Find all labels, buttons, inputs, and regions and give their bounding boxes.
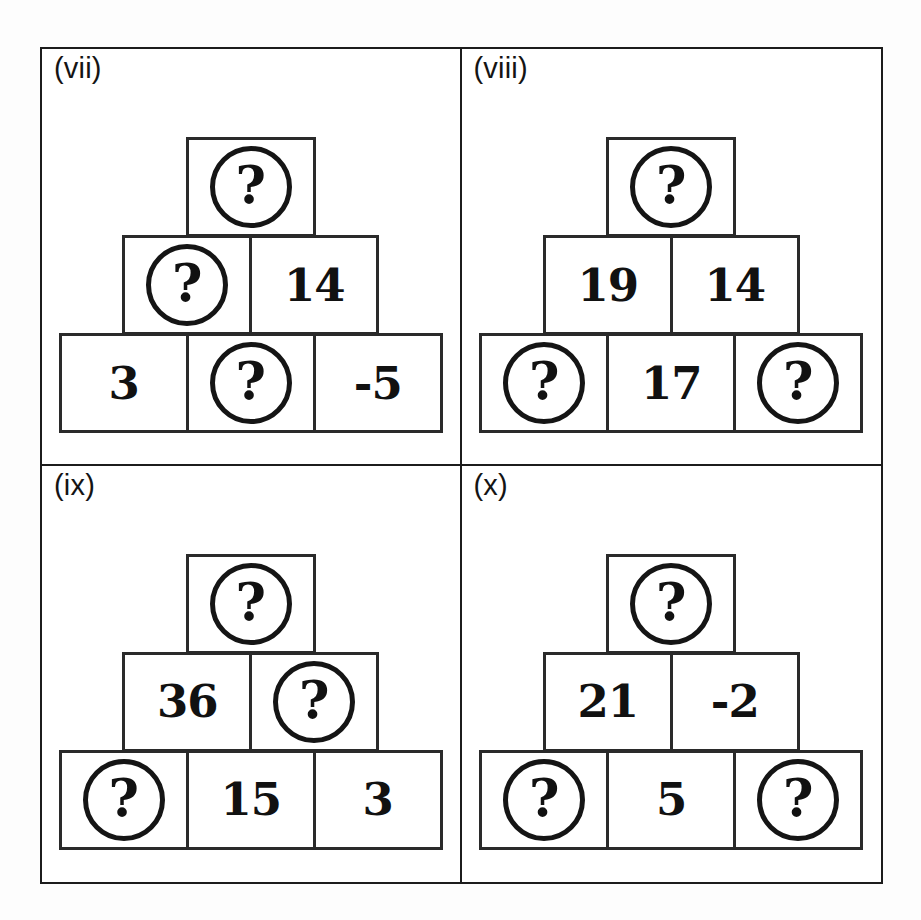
pyramid-cell[interactable]: 5 — [606, 750, 736, 850]
cell-value: ? — [109, 772, 139, 824]
pyramid-row-middle: 36 ? — [56, 652, 446, 752]
pyramid-row-bottom: ? 17 ? — [476, 333, 866, 433]
pyramid-cell[interactable]: -2 — [670, 652, 800, 752]
cell-value: -5 — [354, 361, 402, 406]
cell-value: ? — [236, 159, 266, 211]
cell-value: 19 — [577, 263, 638, 308]
pyramid-row-bottom: ? 5 ? — [476, 750, 866, 850]
pyramid-cell[interactable]: ? — [122, 235, 252, 335]
cell-value: ? — [529, 355, 559, 407]
pyramid-row-middle: ? 14 — [56, 235, 446, 335]
pyramid-cell[interactable]: ? — [59, 750, 189, 850]
pyramid-cell[interactable]: -5 — [313, 333, 443, 433]
unknown-circle-icon[interactable]: ? — [210, 563, 292, 645]
cell-value: 5 — [656, 777, 686, 822]
pyramid-cell[interactable]: 3 — [59, 333, 189, 433]
cell-value: 36 — [157, 679, 218, 724]
pyramid-cell[interactable]: ? — [186, 554, 316, 654]
cell-value: ? — [299, 674, 329, 726]
puzzle-panel-ix: (ix) ? 36 ? ? — [42, 466, 462, 883]
unknown-circle-icon[interactable]: ? — [630, 146, 712, 228]
puzzle-panel-vii: (vii) ? ? 14 3 — [42, 49, 462, 466]
unknown-circle-icon[interactable]: ? — [210, 146, 292, 228]
cell-value: 15 — [220, 777, 281, 822]
pyramid-cell[interactable]: ? — [186, 137, 316, 237]
panel-label-x: (x) — [474, 470, 508, 502]
pyramid-row-top: ? — [476, 137, 866, 237]
cell-value: ? — [236, 355, 266, 407]
pyramid-cell[interactable]: 14 — [249, 235, 379, 335]
pyramid-cell[interactable]: ? — [733, 750, 863, 850]
cell-value: ? — [236, 576, 266, 628]
cell-value: ? — [783, 355, 813, 407]
worksheet-frame: (vii) ? ? 14 3 — [40, 47, 883, 884]
number-pyramid-vii: ? ? 14 3 ? — [56, 137, 446, 434]
cell-value: -2 — [711, 679, 759, 724]
puzzle-panel-viii: (viii) ? 19 14 ? — [462, 49, 882, 466]
pyramid-row-top: ? — [56, 554, 446, 654]
unknown-circle-icon[interactable]: ? — [503, 759, 585, 841]
pyramid-cell[interactable]: ? — [479, 333, 609, 433]
cell-value: ? — [783, 772, 813, 824]
number-pyramid-viii: ? 19 14 ? 17 — [476, 137, 866, 434]
pyramid-row-bottom: ? 15 3 — [56, 750, 446, 850]
unknown-circle-icon[interactable]: ? — [757, 342, 839, 424]
unknown-circle-icon[interactable]: ? — [630, 563, 712, 645]
pyramid-cell[interactable]: ? — [186, 333, 316, 433]
worksheet-page: (vii) ? ? 14 3 — [0, 0, 921, 920]
cell-value: 14 — [704, 263, 765, 308]
panel-label-viii: (viii) — [474, 53, 528, 85]
pyramid-cell[interactable]: 19 — [543, 235, 673, 335]
pyramid-cell[interactable]: ? — [606, 554, 736, 654]
unknown-circle-icon[interactable]: ? — [273, 661, 355, 743]
unknown-circle-icon[interactable]: ? — [146, 244, 228, 326]
cell-value: ? — [656, 576, 686, 628]
puzzle-panel-x: (x) ? 21 -2 ? — [462, 466, 882, 883]
pyramid-cell[interactable]: ? — [606, 137, 736, 237]
cell-value: ? — [656, 159, 686, 211]
pyramid-cell[interactable]: 36 — [122, 652, 252, 752]
cell-value: 14 — [284, 263, 345, 308]
cell-value: 3 — [109, 361, 139, 406]
pyramid-row-middle: 21 -2 — [476, 652, 866, 752]
pyramid-row-top: ? — [56, 137, 446, 237]
pyramid-row-bottom: 3 ? -5 — [56, 333, 446, 433]
unknown-circle-icon[interactable]: ? — [503, 342, 585, 424]
number-pyramid-x: ? 21 -2 ? 5 — [476, 554, 866, 851]
cell-value: ? — [172, 257, 202, 309]
pyramid-cell[interactable]: 15 — [186, 750, 316, 850]
pyramid-cell[interactable]: 17 — [606, 333, 736, 433]
pyramid-cell[interactable]: ? — [733, 333, 863, 433]
pyramid-cell[interactable]: 14 — [670, 235, 800, 335]
cell-value: 17 — [641, 361, 702, 406]
cell-value: ? — [529, 772, 559, 824]
pyramid-row-top: ? — [476, 554, 866, 654]
pyramid-cell[interactable]: 21 — [543, 652, 673, 752]
panel-label-ix: (ix) — [54, 470, 95, 502]
cell-value: 21 — [577, 679, 638, 724]
unknown-circle-icon[interactable]: ? — [757, 759, 839, 841]
unknown-circle-icon[interactable]: ? — [210, 342, 292, 424]
unknown-circle-icon[interactable]: ? — [83, 759, 165, 841]
pyramid-cell[interactable]: 3 — [313, 750, 443, 850]
pyramid-row-middle: 19 14 — [476, 235, 866, 335]
pyramid-cell[interactable]: ? — [479, 750, 609, 850]
panel-label-vii: (vii) — [54, 53, 102, 85]
number-pyramid-ix: ? 36 ? ? 15 — [56, 554, 446, 851]
pyramid-cell[interactable]: ? — [249, 652, 379, 752]
cell-value: 3 — [363, 777, 393, 822]
